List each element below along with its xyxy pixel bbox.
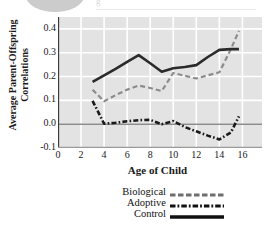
series-line-biological [93, 31, 239, 102]
x-axis-tick-labels: 0246810121416 [0, 149, 271, 165]
series-line-adoptive [93, 101, 239, 140]
y-tick-label: 0.4 [30, 22, 56, 33]
legend-item: Control [28, 208, 271, 219]
plot-svg [58, 17, 262, 148]
x-tick-label: 2 [71, 149, 91, 160]
legend-item: Adoptive [28, 197, 271, 208]
x-tick-label: 14 [209, 149, 229, 160]
x-tick-label: 4 [94, 149, 114, 160]
plot-area [58, 17, 262, 148]
y-tick-label: 0.3 [30, 46, 56, 57]
legend-item-swatch-dashed [169, 186, 225, 197]
x-tick-label: 12 [186, 149, 206, 160]
line-chart-figure: Average Parent-Offspring Correlations 0.… [0, 0, 271, 225]
legend-item: Biological [28, 186, 271, 197]
x-axis-title: Age of Child [0, 164, 271, 176]
legend-item-label: Biological [74, 186, 169, 197]
y-axis-title-line1: Average Parent-Offspring [7, 4, 19, 146]
legend-item-swatch-solid [169, 208, 225, 219]
x-tick-label: 16 [232, 149, 252, 160]
x-tick-label: 8 [140, 149, 160, 160]
y-tick-label: 0.2 [30, 70, 56, 81]
x-tick-label: 6 [117, 149, 137, 160]
chart-legend: BiologicalAdoptiveControl [0, 186, 271, 219]
y-tick-label: 0.1 [30, 93, 56, 104]
x-tick-label: 0 [48, 149, 68, 160]
y-tick-label: 0.0 [30, 117, 56, 128]
legend-item-label: Adoptive [74, 197, 169, 208]
legend-item-swatch-dash-dot [169, 197, 225, 208]
x-tick-label: 10 [163, 149, 183, 160]
legend-item-label: Control [74, 208, 169, 219]
